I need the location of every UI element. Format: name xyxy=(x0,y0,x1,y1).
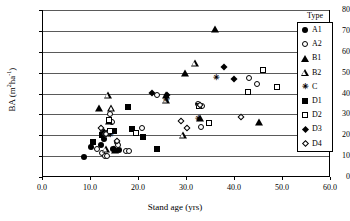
legend-item-D2[interactable]: D2 xyxy=(298,108,332,122)
data-point-D4 xyxy=(183,124,190,131)
data-point-D4 xyxy=(102,131,109,138)
legend-item-label: A2 xyxy=(312,40,322,48)
open-circle-icon xyxy=(301,40,309,48)
legend-item-label: B2 xyxy=(312,69,321,77)
data-point-D3 xyxy=(148,89,155,96)
open-triangle-icon xyxy=(301,69,309,77)
data-point-D2 xyxy=(274,84,280,90)
gridline xyxy=(43,31,329,32)
legend-item-D3[interactable]: D3 xyxy=(298,122,332,136)
filled-square-icon xyxy=(301,97,309,105)
data-point-A2 xyxy=(246,75,252,81)
data-point-D4 xyxy=(196,102,203,109)
y-tick-mark xyxy=(39,73,42,74)
data-point-D1 xyxy=(154,146,160,152)
legend-item-A2[interactable]: A2 xyxy=(298,37,332,51)
data-point-D2 xyxy=(133,130,139,136)
legend-item-label: C xyxy=(312,83,317,91)
y-tick-label: 0 xyxy=(324,173,350,181)
data-point-B1 xyxy=(211,26,219,33)
legend-item-label: D3 xyxy=(312,125,322,133)
y-axis-title-part1: BA (m xyxy=(7,87,17,111)
asterisk-icon: ✳ xyxy=(301,83,309,91)
filled-triangle-icon xyxy=(301,54,309,62)
plot-area xyxy=(42,10,330,177)
x-tick-mark xyxy=(138,177,139,180)
data-point-A2 xyxy=(104,153,110,159)
legend-item-C[interactable]: ✳C xyxy=(298,80,332,94)
data-point-D4 xyxy=(177,117,184,124)
gridline xyxy=(43,114,329,115)
y-tick-label: 10 xyxy=(324,152,350,160)
x-tick-mark xyxy=(42,177,43,180)
legend-item-B1[interactable]: B1 xyxy=(298,51,332,65)
legend-item-label: A1 xyxy=(312,26,322,34)
data-point-D1 xyxy=(90,139,96,145)
legend-item-label: D2 xyxy=(312,111,322,119)
data-point-D1 xyxy=(140,134,146,140)
filled-circle-icon xyxy=(301,26,309,34)
x-tick-mark xyxy=(282,177,283,180)
data-point-D3 xyxy=(111,146,118,153)
x-tick-mark xyxy=(330,177,331,180)
open-square-icon xyxy=(301,111,309,119)
data-point-A1 xyxy=(81,154,87,160)
filled-diamond-icon xyxy=(301,125,309,133)
x-tick-mark xyxy=(186,177,187,180)
legend-item-label: D1 xyxy=(312,97,322,105)
x-tick-label: 20.0 xyxy=(118,184,158,192)
data-point-D3 xyxy=(163,91,170,98)
y-tick-mark xyxy=(39,10,42,11)
gridline xyxy=(43,10,329,11)
gridline xyxy=(43,52,329,53)
data-point-A2 xyxy=(198,124,204,130)
data-point-B2 xyxy=(107,105,115,112)
gridline xyxy=(43,94,329,95)
y-axis-title-sup2: -1 xyxy=(6,71,12,76)
data-point-D3 xyxy=(220,64,227,71)
y-tick-mark xyxy=(39,31,42,32)
data-point-C: ✳ xyxy=(195,114,202,121)
data-point-D3 xyxy=(231,76,238,83)
data-point-B2 xyxy=(104,92,112,99)
data-point-B2 xyxy=(102,146,110,153)
legend-item-label: B1 xyxy=(312,54,321,62)
y-tick-mark xyxy=(39,135,42,136)
x-axis-title: Stand age (yrs) xyxy=(0,202,350,212)
legend-item-B2[interactable]: B2 xyxy=(298,66,332,80)
open-diamond-icon xyxy=(301,140,309,148)
y-tick-mark xyxy=(39,94,42,95)
legend: A1A2B1B2✳CD1D2D3D4 xyxy=(297,22,333,152)
data-point-B1 xyxy=(95,105,103,112)
x-tick-mark xyxy=(90,177,91,180)
x-tick-mark xyxy=(234,177,235,180)
x-tick-label: 0.0 xyxy=(22,184,62,192)
data-point-B2 xyxy=(191,59,199,66)
y-tick-mark xyxy=(39,114,42,115)
data-point-B1 xyxy=(181,70,189,77)
y-tick-mark xyxy=(39,52,42,53)
legend-item-label: D4 xyxy=(312,140,322,148)
legend-item-D4[interactable]: D4 xyxy=(298,137,332,151)
data-point-D2 xyxy=(245,89,251,95)
chart-root: 01020304050607080 0.010.020.030.040.050.… xyxy=(0,0,350,221)
data-point-D4 xyxy=(238,113,245,120)
y-axis-title-sup1: 2 xyxy=(6,84,12,87)
y-tick-mark xyxy=(39,156,42,157)
x-tick-label: 40.0 xyxy=(214,184,254,192)
data-point-B1 xyxy=(255,119,263,126)
data-point-A2 xyxy=(139,125,145,131)
data-point-B2 xyxy=(179,132,187,139)
data-point-D4 xyxy=(113,138,120,145)
data-point-A2 xyxy=(126,148,132,154)
data-point-D1 xyxy=(125,104,131,110)
y-axis-title: BA (m2ha-1) xyxy=(6,35,17,145)
x-tick-label: 60.0 xyxy=(310,184,350,192)
data-point-A2 xyxy=(254,81,260,87)
legend-item-D1[interactable]: D1 xyxy=(298,94,332,108)
x-tick-label: 50.0 xyxy=(262,184,302,192)
data-point-C: ✳ xyxy=(213,73,220,80)
y-axis-title-part3: ) xyxy=(7,68,17,71)
legend-item-A1[interactable]: A1 xyxy=(298,23,332,37)
x-tick-label: 30.0 xyxy=(166,184,206,192)
